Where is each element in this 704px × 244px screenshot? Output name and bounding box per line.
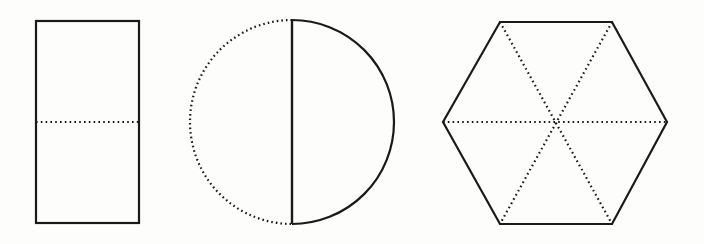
circle-left-arc-dotted <box>190 20 292 224</box>
circle-right-arc-solid <box>292 20 394 224</box>
shapes-diagram: Geometric shapes divided into equal part… <box>0 0 704 244</box>
figure-canvas: Geometric shapes divided into equal part… <box>0 0 704 244</box>
shape-rectangle <box>36 21 139 223</box>
shape-hexagon <box>443 22 667 224</box>
shape-circle <box>190 20 394 224</box>
